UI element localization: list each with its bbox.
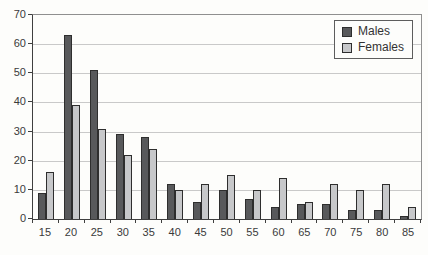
- x-axis-tick: [240, 219, 266, 223]
- y-axis-label: 50: [0, 66, 26, 78]
- bar-females-65: [305, 202, 313, 219]
- bar-males-55: [245, 199, 253, 219]
- x-axis-tick: [292, 219, 318, 223]
- x-axis-label: 45: [188, 226, 214, 238]
- x-axis-label: 30: [110, 226, 136, 238]
- y-axis-label: 30: [0, 125, 26, 137]
- bar-group-25: [85, 15, 111, 219]
- legend-row-females: Females: [342, 41, 404, 54]
- x-axis-label: 15: [32, 226, 58, 238]
- bar-females-75: [356, 190, 364, 219]
- legend-label-males: Males: [358, 25, 390, 38]
- x-axis-label: 25: [84, 226, 110, 238]
- x-axis-label: 20: [58, 226, 84, 238]
- bar-group-65: [292, 15, 318, 219]
- y-axis-tick: [28, 160, 32, 161]
- males-swatch-icon: [342, 27, 352, 37]
- bar-females-85: [408, 207, 416, 219]
- x-axis-label: 70: [317, 226, 343, 238]
- x-axis-label: 50: [214, 226, 240, 238]
- x-axis-tick: [395, 219, 421, 223]
- x-axis-label: 85: [395, 226, 421, 238]
- bar-females-30: [124, 155, 132, 219]
- y-axis-label: 0: [0, 212, 26, 224]
- bar-group-15: [33, 15, 59, 219]
- bar-females-35: [149, 149, 157, 219]
- bar-females-80: [382, 184, 390, 219]
- bar-group-20: [59, 15, 85, 219]
- y-axis-label: 60: [0, 37, 26, 49]
- bar-chart-figure: 010203040506070 152025303540455055606570…: [0, 0, 428, 255]
- bar-males-45: [193, 202, 201, 219]
- bar-group-50: [214, 15, 240, 219]
- bar-females-45: [201, 184, 209, 219]
- y-axis-tick: [28, 131, 32, 132]
- bar-females-20: [72, 105, 80, 219]
- y-axis-tick: [28, 101, 32, 102]
- y-axis-label: 40: [0, 95, 26, 107]
- bar-females-60: [279, 178, 287, 219]
- x-axis-tick: [214, 219, 240, 223]
- x-axis-tick: [111, 219, 137, 223]
- bar-males-20: [64, 35, 72, 219]
- x-axis-label: 65: [291, 226, 317, 238]
- bar-males-25: [90, 70, 98, 219]
- x-axis-tick: [162, 219, 188, 223]
- y-axis-tick: [28, 43, 32, 44]
- bar-group-60: [266, 15, 292, 219]
- y-axis-label: 70: [0, 8, 26, 20]
- x-axis-tick: [343, 219, 369, 223]
- females-swatch-icon: [342, 43, 352, 53]
- bar-group-55: [240, 15, 266, 219]
- bar-females-70: [330, 184, 338, 219]
- bar-group-35: [136, 15, 162, 219]
- x-axis-label: 75: [343, 226, 369, 238]
- bar-males-60: [271, 207, 279, 219]
- bar-group-30: [111, 15, 137, 219]
- x-axis-tick: [59, 219, 85, 223]
- bar-males-30: [116, 134, 124, 219]
- y-axis-label: 20: [0, 154, 26, 166]
- x-axis-tick: [33, 219, 59, 223]
- x-axis-tick: [369, 219, 395, 223]
- bar-group-40: [162, 15, 188, 219]
- x-axis-ticks: [32, 219, 421, 223]
- legend-row-males: Males: [342, 25, 404, 38]
- bar-males-70: [322, 204, 330, 219]
- y-axis-label: 10: [0, 183, 26, 195]
- x-axis-label: 80: [369, 226, 395, 238]
- bar-males-50: [219, 190, 227, 219]
- x-axis-labels: 152025303540455055606570758085: [32, 226, 421, 238]
- legend-label-females: Females: [358, 41, 404, 54]
- x-axis-label: 35: [136, 226, 162, 238]
- bar-males-75: [348, 210, 356, 219]
- bar-males-35: [141, 137, 149, 219]
- bar-males-40: [167, 184, 175, 219]
- x-axis-tick: [317, 219, 343, 223]
- x-axis-tick: [188, 219, 214, 223]
- y-axis-tick: [28, 72, 32, 73]
- x-axis-tick: [266, 219, 292, 223]
- bar-females-55: [253, 190, 261, 219]
- x-axis-label: 40: [162, 226, 188, 238]
- bar-females-15: [46, 172, 54, 219]
- bar-males-80: [374, 210, 382, 219]
- bar-males-15: [38, 193, 46, 219]
- x-axis-label: 55: [240, 226, 266, 238]
- bar-females-25: [98, 129, 106, 219]
- x-axis-tick: [136, 219, 162, 223]
- legend: Males Females: [334, 20, 413, 59]
- bar-males-65: [297, 204, 305, 219]
- y-axis-tick: [28, 189, 32, 190]
- bar-group-45: [188, 15, 214, 219]
- x-axis-tick: [85, 219, 111, 223]
- bar-females-50: [227, 175, 235, 219]
- x-axis-label: 60: [265, 226, 291, 238]
- bar-females-40: [175, 190, 183, 219]
- y-axis-tick: [28, 14, 32, 15]
